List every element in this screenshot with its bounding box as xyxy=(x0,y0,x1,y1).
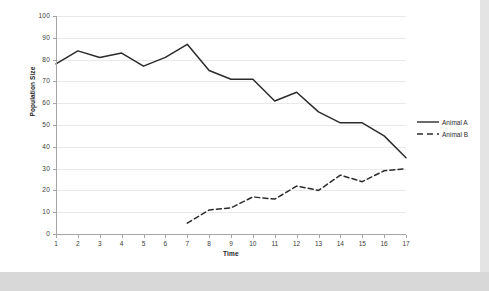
page-edge-bottom xyxy=(0,272,489,291)
legend-label-animal-a: Animal A xyxy=(442,119,468,126)
x-tick-label: 13 xyxy=(308,240,330,247)
y-tick-mark xyxy=(53,81,56,82)
x-tick-label: 3 xyxy=(89,240,111,247)
x-tick-label: 9 xyxy=(220,240,242,247)
plot-area xyxy=(56,16,406,234)
y-tick-label: 30 xyxy=(22,165,50,172)
x-tick-mark xyxy=(187,235,188,238)
x-tick-mark xyxy=(209,235,210,238)
x-tick-mark xyxy=(297,235,298,238)
y-tick-label: 10 xyxy=(22,208,50,215)
x-tick-mark xyxy=(340,235,341,238)
page-edge-right xyxy=(480,0,489,272)
chart-card: 0102030405060708090100 12345678910111213… xyxy=(0,0,480,272)
solid-line-swatch-icon xyxy=(417,118,439,126)
x-tick-label: 1 xyxy=(45,240,67,247)
y-tick-mark xyxy=(53,38,56,39)
y-tick-label: 90 xyxy=(22,34,50,41)
series-layer xyxy=(56,16,406,234)
x-tick-label: 17 xyxy=(395,240,417,247)
y-tick-mark xyxy=(53,147,56,148)
legend-item-animal-a: Animal A xyxy=(417,117,479,127)
y-axis-title: Population Size xyxy=(29,37,36,147)
x-tick-mark xyxy=(253,235,254,238)
y-tick-mark xyxy=(53,60,56,61)
y-tick-mark xyxy=(53,169,56,170)
dashed-line-swatch-icon xyxy=(417,130,439,138)
legend-item-animal-b: Animal B xyxy=(417,129,479,139)
y-tick-label: 40 xyxy=(22,143,50,150)
x-tick-label: 2 xyxy=(67,240,89,247)
y-axis-line xyxy=(56,16,57,235)
y-tick-label: 80 xyxy=(22,56,50,63)
y-tick-mark xyxy=(53,125,56,126)
x-axis-title: Time xyxy=(56,250,406,257)
x-tick-mark xyxy=(100,235,101,238)
x-tick-label: 10 xyxy=(242,240,264,247)
y-tick-label: 60 xyxy=(22,99,50,106)
series-line-animal-a xyxy=(56,44,406,157)
x-tick-label: 5 xyxy=(133,240,155,247)
y-tick-mark xyxy=(53,103,56,104)
x-tick-label: 8 xyxy=(198,240,220,247)
x-tick-mark xyxy=(384,235,385,238)
x-tick-label: 4 xyxy=(111,240,133,247)
x-tick-mark xyxy=(122,235,123,238)
y-tick-label: 50 xyxy=(22,121,50,128)
y-tick-label: 20 xyxy=(22,186,50,193)
x-tick-mark xyxy=(165,235,166,238)
x-tick-mark xyxy=(231,235,232,238)
y-tick-label: 100 xyxy=(22,12,50,19)
x-tick-label: 12 xyxy=(286,240,308,247)
x-tick-mark xyxy=(144,235,145,238)
x-tick-mark xyxy=(56,235,57,238)
x-tick-label: 7 xyxy=(176,240,198,247)
x-tick-mark xyxy=(275,235,276,238)
x-tick-mark xyxy=(406,235,407,238)
y-tick-label: 0 xyxy=(22,230,50,237)
x-tick-label: 15 xyxy=(351,240,373,247)
chart-legend: Animal A Animal B xyxy=(417,117,479,141)
x-tick-label: 11 xyxy=(264,240,286,247)
y-tick-mark xyxy=(53,190,56,191)
population-size-line-chart: 0102030405060708090100 12345678910111213… xyxy=(0,0,480,272)
series-line-animal-b xyxy=(187,169,406,224)
x-tick-label: 14 xyxy=(329,240,351,247)
x-tick-mark xyxy=(362,235,363,238)
legend-label-animal-b: Animal B xyxy=(442,131,468,138)
x-tick-mark xyxy=(319,235,320,238)
x-tick-label: 16 xyxy=(373,240,395,247)
y-tick-mark xyxy=(53,16,56,17)
x-tick-label: 6 xyxy=(154,240,176,247)
y-tick-mark xyxy=(53,212,56,213)
y-tick-label: 70 xyxy=(22,77,50,84)
x-tick-mark xyxy=(78,235,79,238)
